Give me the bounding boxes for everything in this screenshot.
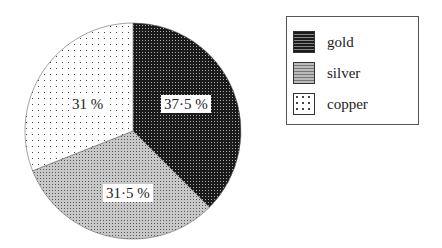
- slice-label-silver: 31·5 %: [103, 184, 153, 202]
- legend-item-copper: copper: [293, 93, 368, 115]
- legend-label: copper: [327, 96, 368, 113]
- chart-legend: gold silver copper: [286, 16, 419, 125]
- legend-label: silver: [327, 65, 360, 82]
- slice-label-copper: 31 %: [69, 95, 106, 113]
- legend-label: gold: [327, 34, 354, 51]
- legend-swatch-silver: [293, 62, 315, 84]
- legend-item-gold: gold: [293, 31, 354, 53]
- legend-swatch-copper: [293, 93, 315, 115]
- slice-label-gold: 37·5 %: [161, 95, 211, 113]
- legend-swatch-gold: [293, 31, 315, 53]
- legend-item-silver: silver: [293, 62, 360, 84]
